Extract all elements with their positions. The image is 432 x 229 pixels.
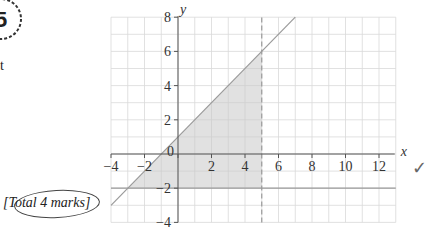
x-tick-label: 2 [208, 159, 215, 174]
x-tick-label: 8 [309, 159, 316, 174]
y-axis-label: y [178, 2, 187, 17]
x-tick-label: 6 [275, 159, 282, 174]
y-tick-label: 4 [164, 79, 171, 94]
y-tick-label: 8 [164, 10, 171, 25]
origin-label: 0 [167, 144, 174, 159]
y-tick-label: −2 [156, 181, 171, 196]
x-tick-label: 4 [242, 159, 249, 174]
x-tick-label: 10 [339, 159, 353, 174]
y-tick-label: 2 [164, 113, 171, 128]
x-tick-label: −2 [137, 159, 152, 174]
x-tick-label: 12 [372, 159, 386, 174]
y-tick-label: −4 [156, 215, 171, 229]
check-mark-icon: ✓ [412, 157, 427, 178]
coordinate-graph: −4−224681012−4−224680xy✓ [0, 0, 432, 229]
x-axis-label: x [400, 144, 408, 159]
y-tick-label: 6 [164, 44, 171, 59]
x-tick-label: −4 [104, 159, 119, 174]
